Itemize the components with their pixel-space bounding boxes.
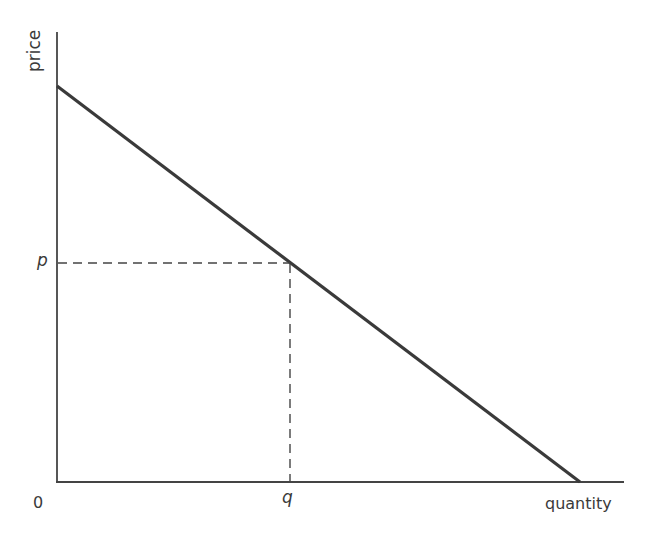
price-marker: p xyxy=(36,250,48,270)
origin-label: 0 xyxy=(33,493,43,512)
x-axis-label: quantity xyxy=(545,494,612,513)
quantity-marker: q xyxy=(282,487,293,507)
demand-curve xyxy=(57,86,580,482)
demand-diagram: price quantity 0 p q xyxy=(0,0,648,541)
y-axis-label: price xyxy=(24,30,44,72)
